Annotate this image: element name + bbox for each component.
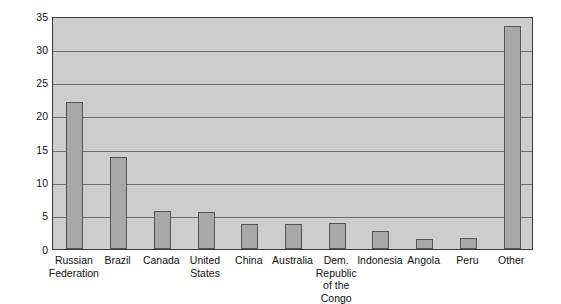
bar bbox=[285, 224, 302, 249]
x-axis-category-labels: Russian FederationBrazilCanadaUnited Sta… bbox=[52, 254, 533, 304]
bar bbox=[241, 224, 258, 249]
x-axis-category-label: Other bbox=[483, 254, 539, 267]
y-axis-tick-label: 35 bbox=[4, 12, 48, 22]
gridline bbox=[53, 84, 532, 85]
y-axis-tick-label: 30 bbox=[4, 45, 48, 55]
y-axis-tick-labels: 05101520253035 bbox=[0, 0, 48, 304]
y-axis-tick-label: 0 bbox=[4, 245, 48, 255]
bar bbox=[372, 231, 389, 249]
gridline bbox=[53, 51, 532, 52]
bar bbox=[504, 26, 521, 249]
y-axis-tick-label: 25 bbox=[4, 78, 48, 88]
y-axis-tick-label: 20 bbox=[4, 111, 48, 121]
bar bbox=[329, 223, 346, 249]
gridline bbox=[53, 151, 532, 152]
gridline bbox=[53, 117, 532, 118]
bar bbox=[416, 239, 433, 249]
bar bbox=[198, 212, 215, 249]
bar bbox=[154, 211, 171, 249]
y-axis-tick-label: 10 bbox=[4, 178, 48, 188]
plot-area bbox=[52, 17, 533, 250]
y-axis-tick-label: 5 bbox=[4, 211, 48, 221]
bar bbox=[66, 102, 83, 249]
bar bbox=[460, 238, 477, 249]
bar bbox=[110, 157, 127, 249]
bar-chart-figure: Percent of Total Area 05101520253035 Rus… bbox=[0, 0, 561, 304]
y-axis-tick-label: 15 bbox=[4, 145, 48, 155]
